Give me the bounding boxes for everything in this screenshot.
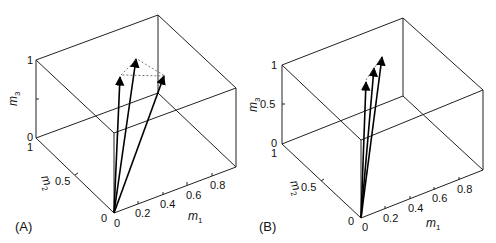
svg-text:1: 1 bbox=[27, 54, 33, 66]
m1-label-a: m1 bbox=[188, 209, 203, 225]
svg-text:0.2: 0.2 bbox=[135, 207, 150, 219]
svg-text:0.5: 0.5 bbox=[55, 175, 70, 187]
svg-text:0.2: 0.2 bbox=[383, 212, 398, 224]
svg-text:1: 1 bbox=[271, 147, 277, 159]
svg-text:1: 1 bbox=[27, 141, 33, 153]
panel-label-b: (B) bbox=[259, 219, 276, 234]
svg-text:0.4: 0.4 bbox=[408, 202, 423, 214]
svg-text:0: 0 bbox=[101, 212, 107, 224]
m2-label-b: m2 bbox=[285, 178, 305, 198]
svg-text:0: 0 bbox=[362, 221, 368, 233]
panel-label-a: (A) bbox=[15, 219, 32, 234]
svg-text:0: 0 bbox=[348, 215, 354, 227]
svg-text:1: 1 bbox=[271, 59, 277, 71]
tick-labels-a: 1 0 1 0.5 0 0 0.2 0.4 0.6 0.8 bbox=[27, 54, 225, 229]
panel-a: 1 0 1 0.5 0 0 0.2 0.4 0.6 0.8 m1 m2 m3 (… bbox=[6, 15, 236, 234]
svg-text:0.5: 0.5 bbox=[260, 98, 275, 110]
svg-text:0.6: 0.6 bbox=[186, 189, 201, 201]
svg-text:0.4: 0.4 bbox=[160, 198, 175, 210]
svg-text:0.8: 0.8 bbox=[210, 179, 225, 191]
m3-label-a: m3 bbox=[6, 91, 22, 106]
m2-label-a: m2 bbox=[36, 173, 56, 193]
m1-label-b: m1 bbox=[426, 216, 441, 232]
vectors-a bbox=[114, 59, 165, 213]
figure: 1 0 1 0.5 0 0 0.2 0.4 0.6 0.8 m1 m2 m3 (… bbox=[0, 0, 496, 243]
svg-text:0.8: 0.8 bbox=[457, 183, 472, 195]
panel-b: 1 0.5 0 1 0.5 0 0 0.2 0.4 0.6 0.8 m1 m2 … bbox=[246, 18, 483, 234]
m3-label-b: m3 bbox=[246, 97, 262, 112]
svg-text:0.6: 0.6 bbox=[432, 192, 447, 204]
svg-text:0: 0 bbox=[114, 217, 120, 229]
vectors-b bbox=[361, 57, 382, 218]
